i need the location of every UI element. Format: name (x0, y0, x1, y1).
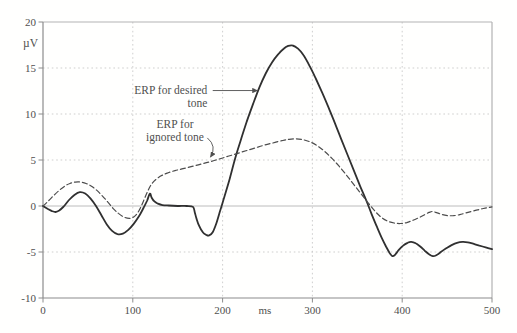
x-tick-label: 500 (484, 304, 501, 316)
y-axis-unit-label: µV (23, 37, 39, 50)
erp-line-chart: 20151050-5-100100200300400500µVmsERP for… (0, 0, 517, 333)
annotation-ignored-tone-arrow (207, 138, 213, 157)
annotation-desired-tone-label: ERP for desired (134, 84, 207, 96)
desired-tone-curve (43, 45, 492, 256)
x-tick-label: 100 (125, 304, 142, 316)
x-tick-label: 400 (394, 304, 411, 316)
y-tick-label: -5 (27, 246, 37, 258)
x-tick-label: 200 (214, 304, 231, 316)
x-tick-label: 0 (40, 304, 46, 316)
y-tick-label: -10 (21, 292, 36, 304)
x-axis-unit-label: ms (258, 304, 271, 316)
chart-canvas: 20151050-5-100100200300400500µVmsERP for… (0, 0, 517, 333)
y-tick-label: 5 (31, 154, 37, 166)
annotation-ignored-tone-label: ERP for (157, 118, 194, 130)
y-tick-label: 15 (25, 62, 37, 74)
annotation-ignored-tone-label: ignored tone (146, 131, 204, 144)
y-tick-label: 10 (25, 108, 37, 120)
y-tick-label: 0 (31, 200, 37, 212)
x-tick-label: 300 (304, 304, 321, 316)
ignored-tone-curve (43, 139, 492, 224)
annotation-desired-tone-label: tone (188, 97, 208, 109)
y-tick-label: 20 (25, 16, 37, 28)
